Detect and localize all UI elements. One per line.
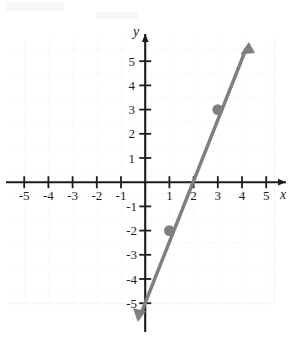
data-point bbox=[212, 104, 223, 115]
y-tick-label: -1 bbox=[126, 199, 137, 214]
x-tick-label: 4 bbox=[239, 188, 246, 203]
graph-figure: -5 -4 -3 -2 -1 1 2 3 4 5 5 4 3 2 1 -1 -2… bbox=[0, 0, 297, 338]
x-tick-label: 1 bbox=[166, 188, 173, 203]
x-tick-label: -2 bbox=[91, 188, 102, 203]
y-tick-label: 3 bbox=[129, 102, 136, 117]
y-tick-label: -4 bbox=[126, 272, 137, 287]
y-axis-label: y bbox=[131, 24, 140, 39]
scan-artifact bbox=[6, 2, 64, 11]
x-axis-label: x bbox=[279, 187, 287, 202]
y-tick-label: -3 bbox=[126, 247, 137, 262]
x-tick-label: -5 bbox=[19, 188, 30, 203]
x-tick-label: -1 bbox=[116, 188, 127, 203]
y-tick-label: 2 bbox=[129, 126, 136, 141]
y-tick-label: 5 bbox=[129, 54, 136, 69]
x-tick-label: -3 bbox=[67, 188, 78, 203]
y-tick-label: -2 bbox=[126, 223, 137, 238]
x-tick-label: 3 bbox=[215, 188, 222, 203]
data-point bbox=[164, 225, 175, 236]
x-tick-label: -4 bbox=[43, 188, 54, 203]
x-tick-label: 5 bbox=[263, 188, 270, 203]
coordinate-plane: -5 -4 -3 -2 -1 1 2 3 4 5 5 4 3 2 1 -1 -2… bbox=[0, 0, 297, 338]
y-tick-label: 4 bbox=[129, 78, 136, 93]
scan-artifact bbox=[96, 12, 138, 19]
y-tick-label: 1 bbox=[129, 151, 136, 166]
